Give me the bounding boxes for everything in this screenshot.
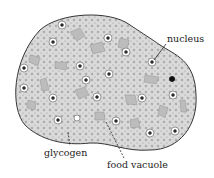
contractile-vacuole <box>169 76 175 82</box>
label-food-vacuole: food vacuole <box>107 160 168 170</box>
label-nucleus: nucleus <box>167 34 204 44</box>
label-glycogen: glycogen <box>44 148 87 158</box>
cell-diagram <box>0 0 214 178</box>
